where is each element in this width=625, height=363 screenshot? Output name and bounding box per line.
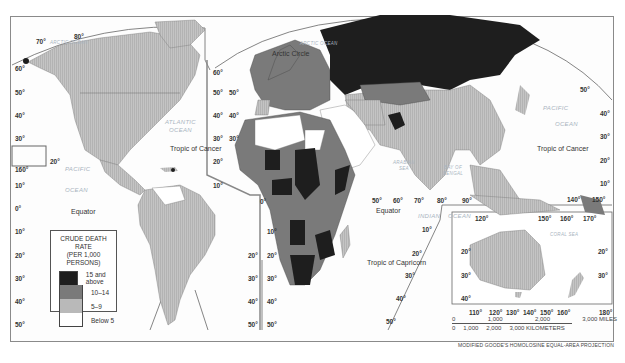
tropic-of-capricorn-label: Tropic of Capricorn (367, 259, 426, 266)
ocean-label-indian: INDIAN (418, 212, 440, 220)
ocean-label-arctic: ARCTIC OCEAN (50, 40, 88, 46)
legend-title: CRUDE DEATH RATE (PER 1,000 PERSONS) (51, 235, 116, 267)
lat-label: 40° (396, 295, 406, 302)
lon-label: 140° (523, 309, 536, 316)
ocean-label-pacific: PACIFIC (65, 165, 90, 173)
lon-label: 140° (567, 196, 580, 203)
lon-label: 160° (557, 309, 570, 316)
lat-label: 0° (260, 198, 266, 205)
legend-swatch (59, 299, 83, 313)
lat-label: 20° (50, 158, 60, 165)
ocean-label-arctic: ARCTIC OCEAN (300, 41, 338, 47)
scale-bar: 0 1,000 2,000 3,000 MILES 0 1,000 2,000 … (452, 316, 617, 331)
legend: CRUDE DEATH RATE (PER 1,000 PERSONS) 15 … (50, 230, 117, 312)
lon-label: 70° (414, 197, 424, 204)
inset-lon-label: 160° (15, 166, 28, 173)
projection-label: MODIFIED GOODE'S HOMOLOSINE EQUAL-AREA P… (458, 342, 614, 348)
lat-label: 20° (600, 157, 610, 164)
lon-label: 120° (475, 215, 488, 222)
scale-km: 0 1,000 2,000 3,000 KILOMETERS (452, 325, 617, 331)
ocean-label-indian: OCEAN (448, 212, 471, 220)
lon-label: 60° (393, 197, 403, 204)
ocean-label-pacific: OCEAN (555, 120, 578, 128)
lat-label: 40° (15, 112, 25, 119)
legend-swatch (59, 271, 78, 285)
arctic-circle-label: Arctic Circle (272, 50, 309, 57)
lat-label: 50° (248, 321, 258, 328)
ocean-label-pacific: PACIFIC (543, 104, 568, 112)
equator-label: Equator (71, 208, 96, 215)
lat-label: 30° (15, 275, 25, 282)
lat-label: 40° (229, 112, 239, 119)
lat-label: 50° (386, 318, 396, 325)
legend-item: 15 and above (51, 271, 116, 285)
lon-label: 130° (506, 309, 519, 316)
lon-label: 120° (489, 309, 502, 316)
lat-label: 20° (213, 158, 223, 165)
legend-swatch (59, 313, 83, 327)
lon-label: 110° (469, 309, 482, 316)
lon-label: 150° (540, 309, 553, 316)
lat-label: 20° (461, 248, 471, 255)
lat-label: 80° (74, 33, 84, 40)
lat-label: 20° (598, 248, 608, 255)
ocean-label-bay-of-bengal: BAY OF BENGAL (443, 165, 463, 177)
lat-label: 60° (15, 65, 25, 72)
scale-miles: 0 1,000 2,000 3,000 MILES (452, 316, 617, 322)
lat-label: 20° (15, 252, 25, 259)
legend-item: 10–14 (51, 285, 116, 299)
lat-label: 40° (600, 110, 610, 117)
lat-label: 30° (229, 135, 239, 142)
lat-label: 10° (267, 228, 277, 235)
lat-label: 40° (461, 295, 471, 302)
lat-label: 30° (600, 133, 610, 140)
lat-label: 60° (213, 69, 223, 76)
tropic-of-cancer-label: Tropic of Cancer (537, 145, 588, 152)
lon-label: 150° (592, 196, 605, 203)
ocean-label-atlantic: ATLANTIC OCEAN (165, 118, 196, 134)
lon-label: 150° (538, 215, 551, 222)
lat-label: 50° (15, 89, 25, 96)
lat-label: 20° (267, 252, 277, 259)
ocean-label-coral-sea: CORAL SEA (550, 232, 578, 238)
lon-label: 180° (599, 309, 612, 316)
lat-label: 20° (412, 250, 422, 257)
lat-label: 40° (267, 298, 277, 305)
lat-label: 50° (580, 86, 590, 93)
ocean-label-arabian-sea: ARABIAN SEA (393, 160, 415, 172)
equator-label: Equator (376, 207, 401, 214)
lat-label: 30° (213, 135, 223, 142)
lat-label: 10° (600, 180, 610, 187)
lat-label: 40° (15, 298, 25, 305)
lat-label: 0° (15, 205, 21, 212)
lon-label: 160° (560, 215, 573, 222)
lat-label: 10° (213, 182, 223, 189)
lat-label: 50° (15, 321, 25, 328)
ocean-label-pacific: OCEAN (65, 186, 88, 194)
lon-label: 70° (36, 38, 46, 45)
scale-line (452, 323, 572, 324)
lat-label: 30° (15, 135, 25, 142)
lat-label: 40° (248, 298, 258, 305)
lat-label: 10° (422, 226, 432, 233)
lat-label: 10° (15, 228, 25, 235)
lat-label: 30° (248, 275, 258, 282)
lon-label: 80° (437, 197, 447, 204)
lat-label: 30° (598, 272, 608, 279)
lat-label: 50° (213, 89, 223, 96)
lat-label: 40° (213, 112, 223, 119)
tropic-of-cancer-label: Tropic of Cancer (170, 145, 221, 152)
lon-label: 90° (462, 197, 472, 204)
lon-label: 170° (583, 215, 596, 222)
lat-label: 20° (248, 252, 258, 259)
lat-label: 50° (267, 321, 277, 328)
lat-label: 30° (461, 272, 471, 279)
lat-label: 50° (229, 89, 239, 96)
lon-label: 50° (372, 197, 382, 204)
legend-swatch (59, 285, 83, 299)
legend-item: Below 5 (51, 313, 116, 327)
lat-label: 10° (15, 182, 25, 189)
lat-label: 30° (267, 275, 277, 282)
lat-label: 30° (405, 272, 415, 279)
legend-item: 5–9 (51, 299, 116, 313)
